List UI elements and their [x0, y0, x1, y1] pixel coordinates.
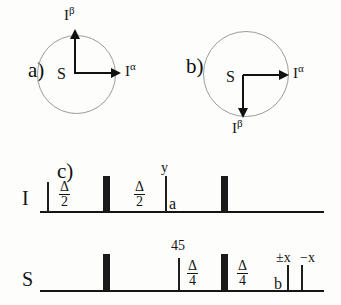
channel-s-delay-quarter-1: Δ 4: [186, 259, 199, 289]
channel-i-delay-half-2-num: Δ: [133, 180, 146, 194]
panel-b-i-alpha-arrow-shaft: [243, 74, 281, 76]
channel-s-phase-minus-x-label: −x: [300, 251, 315, 265]
panel-b-i-alpha-arrow-head: [279, 70, 289, 80]
channel-i-delay-half-2-den: 2: [133, 195, 146, 209]
timepoint-a-label: a: [169, 196, 176, 212]
panel-a-i-alpha-label: Iα: [125, 64, 136, 79]
channel-s-pulse-minus-x: [301, 265, 303, 290]
channel-i-pulse-1: [103, 176, 110, 212]
channel-i-delay-half-2: Δ 2: [133, 180, 146, 210]
channel-s-pulse-2: [221, 254, 228, 290]
panel-a-i-beta-label: Iβ: [64, 8, 75, 23]
channel-s-pulse-pm-x: [287, 265, 289, 290]
channel-i-pulse-90y: [165, 176, 167, 212]
channel-s-delay-quarter-1-den: 4: [186, 274, 199, 288]
channel-s-delay-quarter-2-den: 4: [236, 274, 249, 288]
channel-s-delay-quarter-2: Δ 4: [236, 259, 249, 289]
panel-b-origin-label: S: [226, 69, 235, 85]
panel-b-letter: b): [186, 56, 204, 77]
channel-label-i: I: [22, 188, 29, 208]
panel-a-circle: [37, 35, 116, 114]
channel-i-baseline: [40, 211, 324, 213]
panel-a-i-alpha-arrow-head: [111, 68, 121, 78]
channel-s-flip-angle-45-label: 45: [171, 239, 185, 253]
panel-b-i-alpha-label: Iα: [293, 66, 304, 81]
timepoint-b-label: b: [274, 276, 282, 292]
panel-a-i-beta-arrow-head: [70, 29, 80, 39]
nmr-pulse-sequence-figure: a) S Iα Iβ b) S Iα Iβ c) I Δ 2: [0, 0, 341, 305]
channel-i-pulse-2: [221, 176, 228, 212]
panel-a-i-beta-arrow-shaft: [74, 38, 76, 74]
channel-s-pulse-1: [103, 254, 110, 290]
panel-a-i-alpha-arrow-shaft: [75, 72, 113, 74]
channel-i-phase-y-label: y: [161, 161, 168, 175]
panel-a-i-alpha-sup: α: [130, 60, 136, 72]
channel-i-delay-half-1-den: 2: [58, 195, 71, 209]
channel-s-delay-quarter-1-num: Δ: [186, 259, 199, 273]
channel-s-phase-pm-x-label: ±x: [276, 251, 291, 265]
panel-b-i-alpha-sup: α: [298, 62, 304, 74]
channel-i-start-marker: [47, 182, 49, 212]
channel-s-delay-quarter-2-num: Δ: [236, 259, 249, 273]
panel-a-origin-label: S: [57, 66, 66, 82]
panel-b-i-beta-sup: β: [237, 117, 243, 129]
panel-b-i-beta-arrow-shaft: [242, 75, 244, 109]
panel-b-i-beta-label: Iβ: [232, 121, 243, 136]
panel-a-i-beta-sup: β: [69, 4, 75, 16]
channel-i-delay-half-1-num: Δ: [58, 180, 71, 194]
channel-label-s: S: [22, 269, 33, 289]
channel-i-delay-half-1: Δ 2: [58, 180, 71, 210]
channel-s-pulse-45: [178, 258, 180, 290]
